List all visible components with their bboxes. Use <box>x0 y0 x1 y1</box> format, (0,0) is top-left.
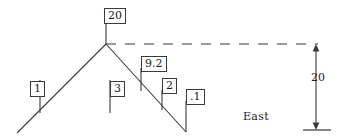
end-flag-label: .1 <box>186 89 205 105</box>
apex-station-label: 20 <box>104 8 126 24</box>
direction-label-east: East <box>243 111 269 122</box>
right-flag-label: 2 <box>162 78 177 94</box>
slope-value-label: 9.2 <box>141 56 167 72</box>
figure-canvas <box>0 0 345 140</box>
mid-flag-label: 3 <box>110 81 125 97</box>
surveying-profile-figure: 20 1 3 9.2 2 .1 20 East <box>0 0 345 140</box>
dimension-value-label: 20 <box>311 72 325 83</box>
dimension-arrow-up <box>313 44 320 52</box>
dimension-arrow-down <box>313 123 320 131</box>
left-flag-label: 1 <box>30 81 45 97</box>
